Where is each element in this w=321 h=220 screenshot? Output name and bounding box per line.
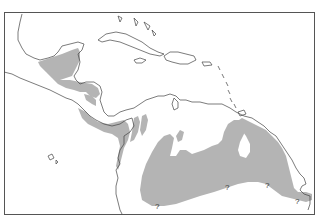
map-canvas <box>0 0 321 220</box>
range-map: ? ? ? ? <box>0 0 321 220</box>
uncertainty-marker-2: ? <box>225 184 229 192</box>
uncertainty-marker-1: ? <box>155 203 159 211</box>
uncertainty-marker-3: ? <box>265 182 269 190</box>
uncertainty-marker-4: ? <box>295 198 299 206</box>
